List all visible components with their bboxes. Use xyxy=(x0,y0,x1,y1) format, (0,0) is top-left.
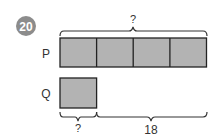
bar-q xyxy=(60,78,97,108)
question-number: 20 xyxy=(19,20,33,34)
row-label-q: Q xyxy=(41,87,50,101)
bar-model-diagram: 20 ? P Q ? 18 xyxy=(0,0,219,138)
top-brace xyxy=(60,27,207,36)
question-number-badge: 20 xyxy=(16,16,36,36)
bottom-left-brace xyxy=(60,112,97,121)
row-label-p: P xyxy=(42,47,50,61)
bottom-left-brace-label: ? xyxy=(75,122,81,134)
bottom-right-brace xyxy=(97,112,207,121)
top-brace-label: ? xyxy=(130,13,136,25)
bottom-right-brace-label: 18 xyxy=(144,123,158,137)
bar-p xyxy=(60,38,207,67)
